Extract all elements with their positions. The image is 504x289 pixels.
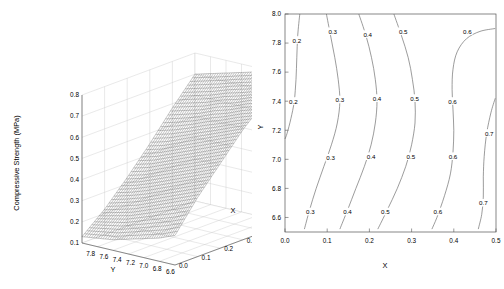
surface-tick-label: 0.6	[70, 134, 79, 141]
contour-level-label: 0.4	[343, 208, 352, 215]
contour-y-tick-label: 7.8	[272, 39, 281, 46]
surface-x-axis-title: X	[231, 206, 236, 215]
contour-line	[340, 14, 377, 229]
contour-y-axis-title: Y	[256, 124, 265, 129]
contour-level-label: 0.5	[399, 28, 408, 35]
surface-tick-label: 0.8	[70, 91, 79, 98]
contour-level-label: 0.6	[463, 28, 472, 35]
contour-line	[378, 14, 416, 229]
surface-y-axis-title: Y	[111, 265, 116, 274]
contour-inline-labels: 0.20.20.30.30.30.30.40.40.40.40.50.50.50…	[288, 27, 494, 215]
contour-lines	[285, 14, 495, 229]
surface-z-axis-title: Compressive Strength (MPa)	[12, 115, 21, 210]
contour-level-label: 0.6	[449, 153, 458, 160]
surface-tick-label: 0.0	[179, 262, 188, 269]
contour-level-label: 0.4	[367, 153, 376, 160]
contour-line	[304, 14, 340, 229]
contour-y-tick-label: 6.6	[272, 214, 281, 221]
contour-level-label: 0.4	[373, 95, 382, 102]
contour-level-label: 0.2	[292, 37, 301, 44]
contour-tick-marks	[285, 14, 496, 232]
contour-y-tick-label: 7.4	[272, 98, 281, 105]
contour-level-label: 0.5	[406, 153, 415, 160]
surface-tick-label: 7.6	[99, 253, 108, 260]
surface-tick-label: 0.3	[70, 197, 79, 204]
surface-tick-label: 7.4	[113, 256, 122, 263]
contour-level-label: 0.4	[363, 31, 372, 38]
surface-tick-label: 0.1	[202, 254, 211, 261]
surface-tick-label: 7.0	[139, 262, 148, 269]
contour-y-tick-label: 8.0	[272, 10, 281, 17]
contour-y-tick-label: 7.0	[272, 156, 281, 163]
contour-level-label: 0.5	[410, 95, 419, 102]
contour-level-label: 0.3	[328, 28, 337, 35]
contour-x-tick-label: 0.2	[365, 237, 374, 244]
contour-level-label: 0.7	[479, 199, 488, 206]
surface-tick-label: 7.2	[126, 259, 135, 266]
contour-plot-panel: 0.20.20.30.30.30.30.40.40.40.40.50.50.50…	[252, 0, 504, 289]
contour-level-label: 0.2	[289, 98, 298, 105]
contour-x-axis-title: X	[383, 261, 388, 270]
surface-tick-label: 0.2	[70, 218, 79, 225]
contour-y-tick-label: 7.2	[272, 127, 281, 134]
contour-level-label: 0.6	[433, 208, 442, 215]
surface-plot-svg: 0.10.20.30.40.50.60.70.87.87.67.47.27.06…	[0, 0, 252, 289]
contour-line	[285, 14, 300, 139]
surface-plot-panel: 0.10.20.30.40.50.60.70.87.87.67.47.27.06…	[0, 0, 252, 289]
contour-level-label: 0.3	[326, 154, 335, 161]
surface-tick-label: 0.4	[70, 176, 79, 183]
surface-tick-label: 0.7	[70, 112, 79, 119]
contour-level-label: 0.6	[448, 98, 457, 105]
contour-level-label: 0.3	[336, 96, 345, 103]
contour-x-tick-label: 0.3	[407, 237, 416, 244]
contour-level-label: 0.5	[381, 208, 390, 215]
contour-frame	[285, 14, 496, 232]
contour-y-tick-label: 6.8	[272, 185, 281, 192]
contour-level-label: 0.3	[306, 208, 315, 215]
surface-tick-label: 0.2	[224, 245, 233, 252]
surface-tick-label: 0.5	[70, 155, 79, 162]
contour-line	[478, 98, 495, 229]
surface-tick-label: 7.8	[86, 250, 95, 257]
contour-x-tick-label: 0.0	[281, 237, 290, 244]
surface-tick-label: 0.1	[70, 239, 79, 246]
surface-tick-label: 6.8	[153, 265, 162, 272]
contour-plot-svg: 0.20.20.30.30.30.30.40.40.40.40.50.50.50…	[252, 0, 504, 289]
contour-y-tick-label: 7.6	[272, 68, 281, 75]
figure-container: 0.10.20.30.40.50.60.70.87.87.67.47.27.06…	[0, 0, 504, 289]
contour-x-tick-label: 0.5	[492, 237, 501, 244]
contour-level-label: 0.7	[485, 130, 494, 137]
contour-x-tick-label: 0.4	[449, 237, 458, 244]
surface-tick-label: 6.6	[166, 268, 175, 275]
contour-x-tick-label: 0.1	[323, 237, 332, 244]
